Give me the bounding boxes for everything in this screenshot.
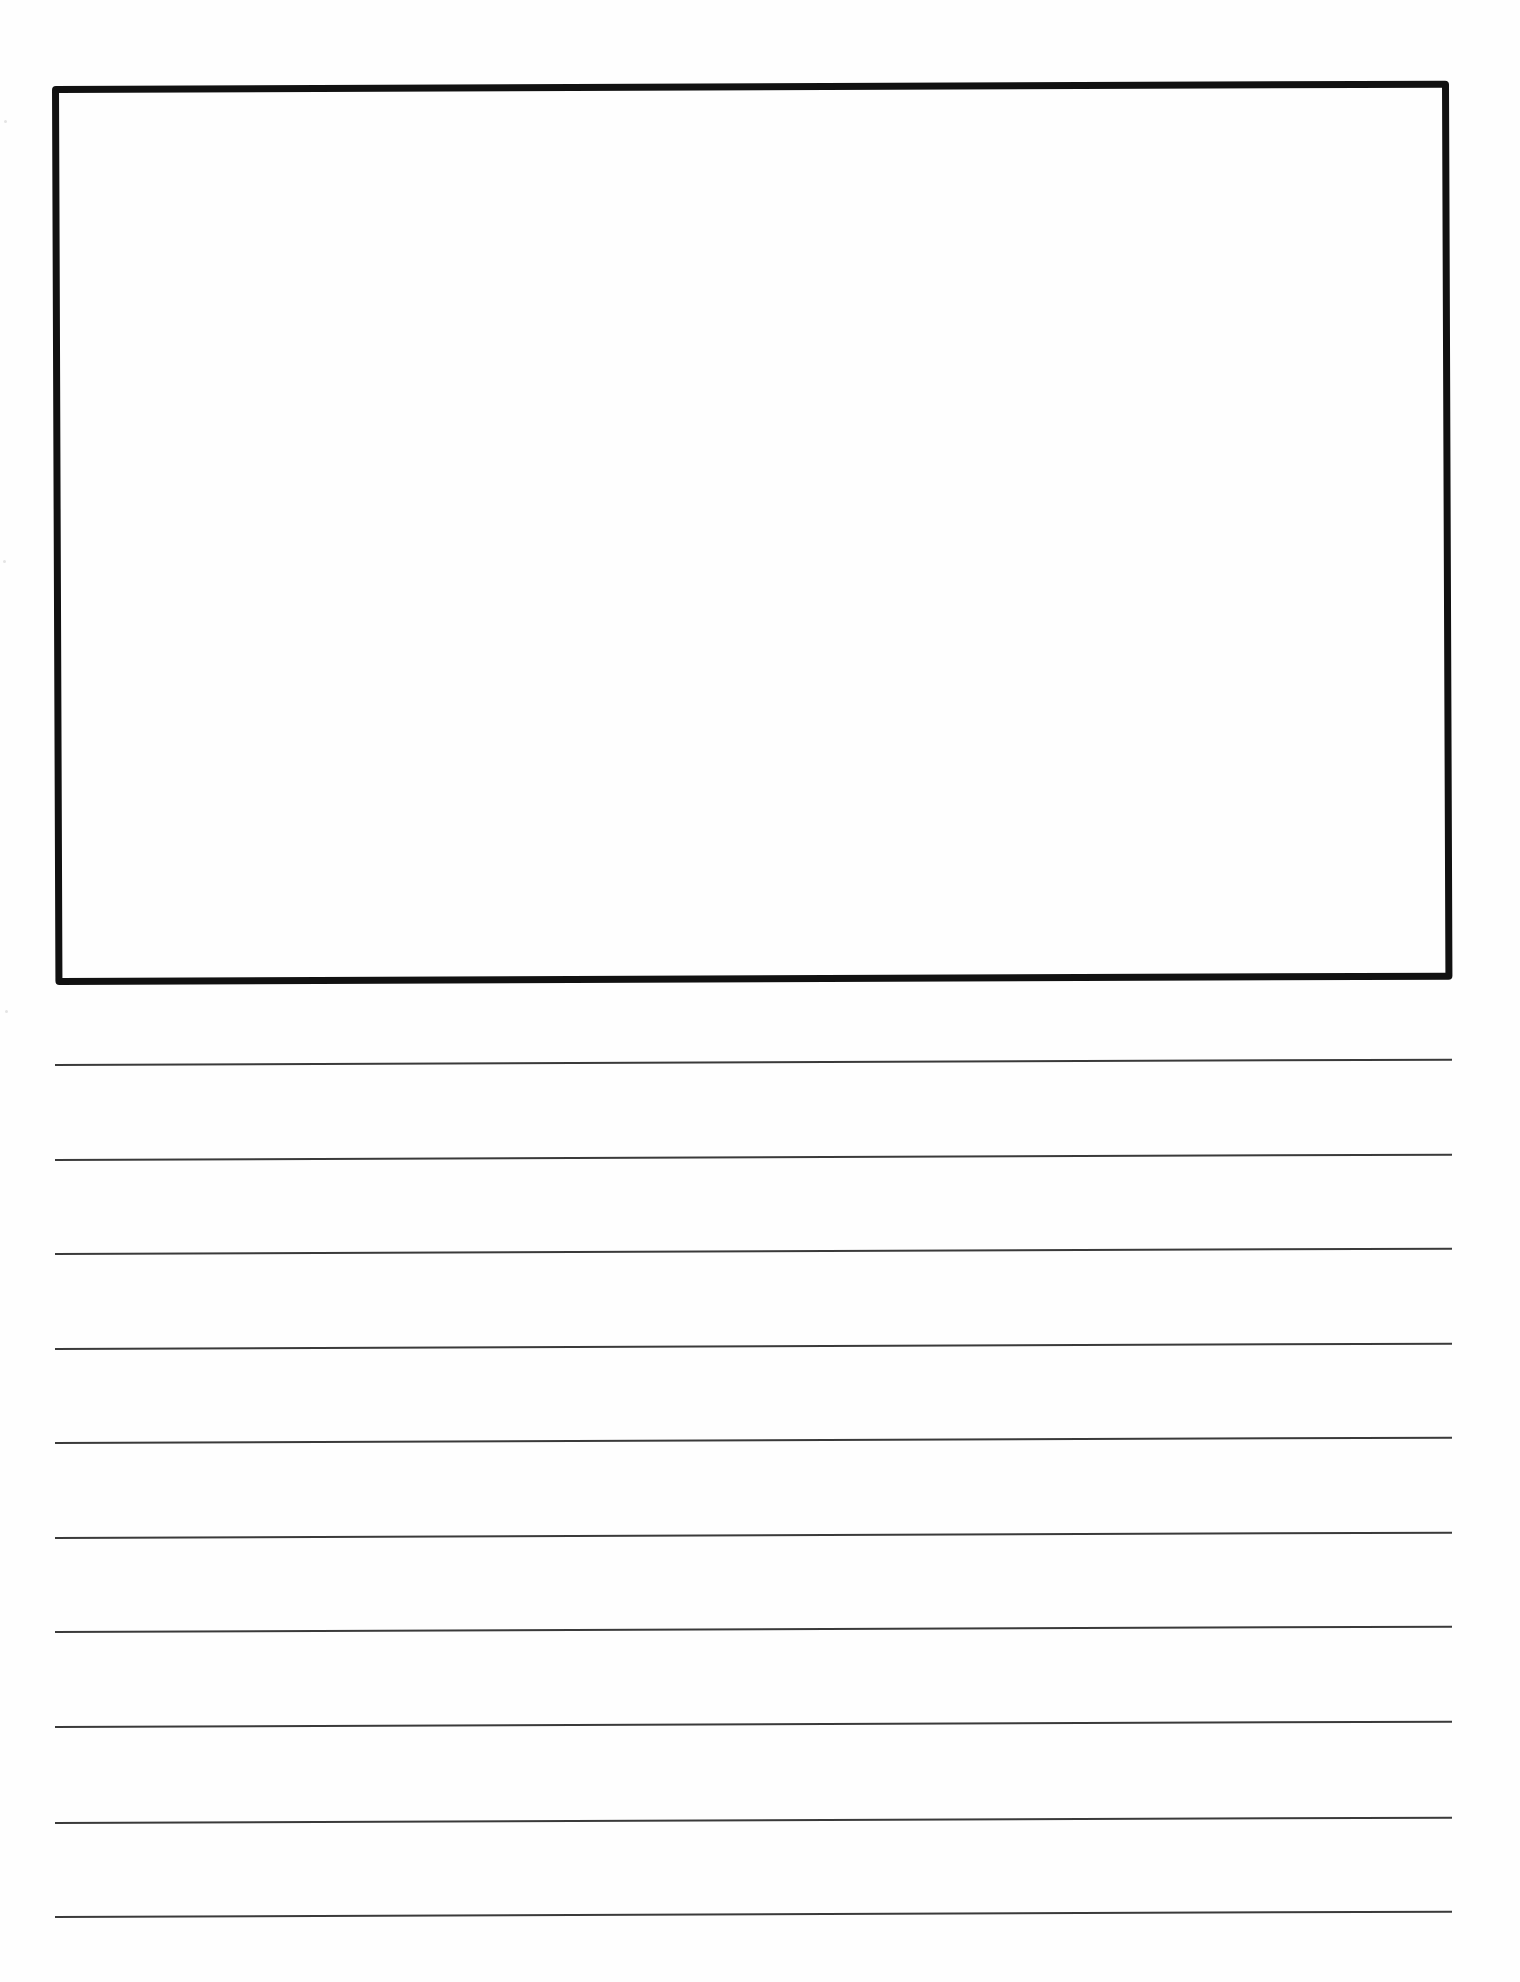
writing-line-2[interactable] (55, 1154, 1452, 1161)
writing-line-7[interactable] (55, 1626, 1452, 1633)
scan-artifact (4, 120, 7, 123)
writing-line-8[interactable] (55, 1721, 1452, 1728)
writing-line-4[interactable] (55, 1343, 1452, 1350)
writing-lines (0, 0, 1520, 1982)
writing-line-10[interactable] (55, 1911, 1452, 1918)
writing-line-5[interactable] (55, 1437, 1452, 1444)
scan-artifact (3, 560, 6, 563)
writing-line-6[interactable] (55, 1532, 1452, 1539)
writing-line-3[interactable] (55, 1248, 1452, 1255)
writing-line-9[interactable] (55, 1817, 1452, 1824)
scan-artifact (5, 1010, 8, 1013)
writing-line-1[interactable] (55, 1059, 1452, 1066)
writing-paper-page (0, 0, 1520, 1982)
